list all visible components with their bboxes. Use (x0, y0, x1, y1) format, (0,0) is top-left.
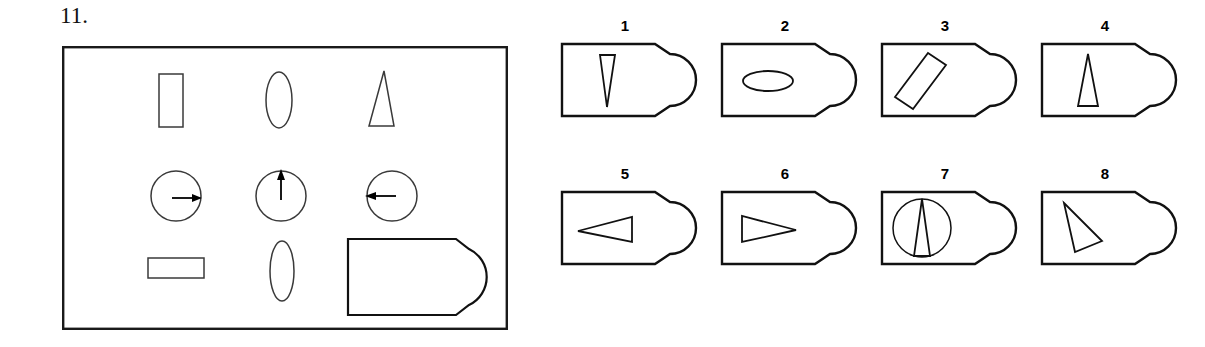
option-plug-outline (882, 192, 1016, 264)
option-6-label: 6 (720, 166, 850, 181)
shape-vertical-rectangle (159, 74, 183, 127)
stimulus-border (63, 47, 507, 329)
option-3-figure (880, 41, 1010, 121)
option-6[interactable]: 6 (720, 166, 870, 276)
option-plug-outline (1042, 192, 1176, 264)
question-number: 11. (60, 4, 88, 27)
option-5[interactable]: 5 (560, 166, 710, 276)
option-7-label: 7 (880, 166, 1010, 181)
shape-narrow-triangle-up (369, 71, 394, 126)
option-6-figure (720, 189, 850, 269)
option-8-figure (1040, 189, 1170, 269)
option-2-label: 2 (720, 18, 850, 33)
shape-circle-with-arrow-left (365, 171, 417, 221)
option-1-figure (560, 41, 690, 121)
shape-vertical-ellipse-small (270, 241, 294, 301)
option-5-figure (560, 189, 690, 269)
stimulus-panel (62, 46, 508, 330)
option-plug-outline (562, 44, 696, 116)
option-3[interactable]: 3 (880, 18, 1030, 128)
option-5-label: 5 (560, 166, 690, 181)
shape-vertical-ellipse (266, 72, 292, 128)
shape-circle-with-arrow-up (256, 169, 306, 221)
option-8[interactable]: 8 (1040, 166, 1190, 276)
option-7[interactable]: 7 (880, 166, 1030, 276)
option-4-label: 4 (1040, 18, 1170, 33)
option-3-label: 3 (880, 18, 1010, 33)
option-1[interactable]: 1 (560, 18, 710, 128)
option-4[interactable]: 4 (1040, 18, 1190, 128)
shape-circle-with-arrow-right (151, 171, 202, 221)
option-4-figure (1040, 41, 1170, 121)
option-1-label: 1 (560, 18, 690, 33)
shape-horizontal-rectangle (148, 258, 204, 278)
option-7-figure (880, 189, 1010, 269)
option-plug-outline (882, 44, 1016, 116)
stimulus-drawing (62, 46, 508, 330)
option-plug-outline (1042, 44, 1176, 116)
option-8-label: 8 (1040, 166, 1170, 181)
option-plug-outline (562, 192, 696, 264)
options-area: 1 2 3 4 5 (560, 18, 1205, 318)
option-plug-outline (722, 44, 856, 116)
option-2[interactable]: 2 (720, 18, 870, 128)
shape-d-shape-plug-large (348, 239, 487, 315)
option-2-figure (720, 41, 850, 121)
